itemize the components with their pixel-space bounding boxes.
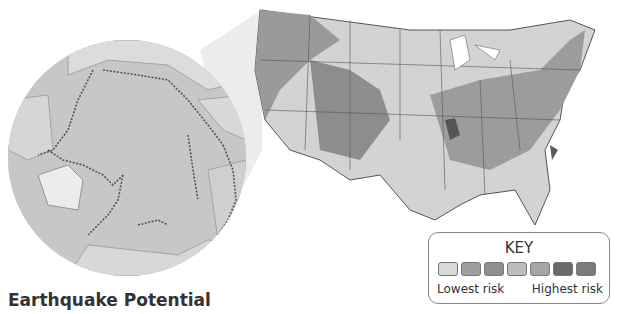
us-risk-map: [250, 0, 610, 236]
risk-swatch-5: [530, 262, 550, 276]
legend-title: KEY: [429, 239, 609, 257]
legend-lowest-label: Lowest risk: [437, 282, 504, 296]
pacific-globe-map: [8, 40, 246, 276]
map-title: Earthquake Potential: [8, 290, 211, 310]
risk-swatch-1: [438, 262, 458, 276]
legend-key: KEY Lowest risk Highest risk: [428, 232, 610, 304]
risk-swatch-4: [507, 262, 527, 276]
legend-highest-label: Highest risk: [532, 282, 603, 296]
risk-swatch-3: [484, 262, 504, 276]
risk-swatch-2: [461, 262, 481, 276]
risk-swatch-6: [553, 262, 573, 276]
legend-swatches: [438, 262, 596, 276]
risk-swatch-7: [576, 262, 596, 276]
